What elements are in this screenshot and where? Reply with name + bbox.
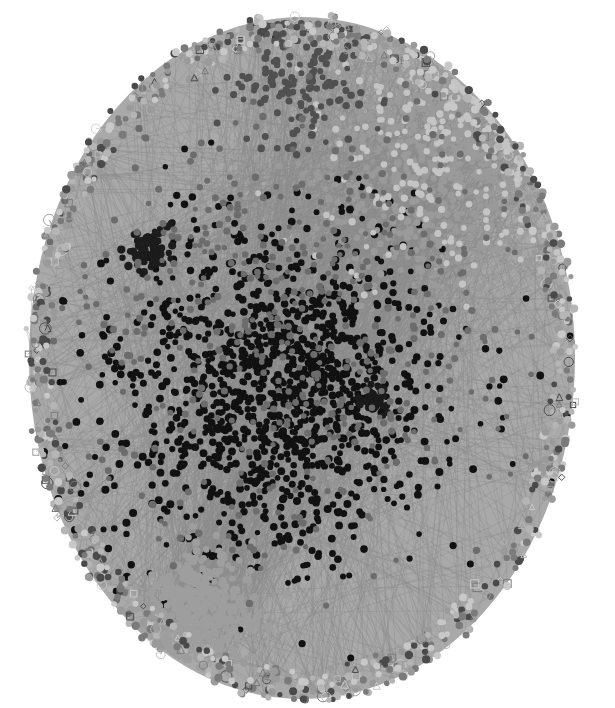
network-graph bbox=[0, 0, 615, 708]
